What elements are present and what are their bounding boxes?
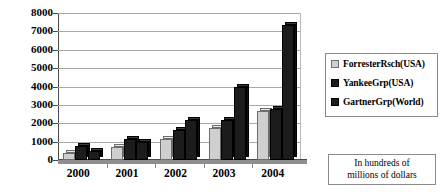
y-tick (53, 50, 58, 51)
bar-face (185, 120, 197, 160)
bar-face (209, 128, 221, 160)
gridline (58, 31, 300, 32)
bar-face (75, 146, 87, 160)
legend-swatch-icon (331, 79, 339, 87)
x-tick (252, 164, 253, 168)
y-tick-label: 5000 (1, 62, 53, 73)
bar-2004-gartnergrp-world (282, 25, 294, 160)
x-tick-label-2002: 2002 (151, 167, 200, 179)
units-note: In hundreds of millions of dollars (328, 154, 436, 185)
y-tick-label: 6000 (1, 44, 53, 55)
bar-2002-yankeegrp-usa (173, 130, 185, 160)
bar-side (246, 84, 249, 158)
legend-label: ForresterRsch(USA) (343, 59, 425, 69)
legend-item-forresterrsch-usa[interactable]: ForresterRsch(USA) (331, 59, 433, 69)
y-tick-label: 7000 (1, 25, 53, 36)
y-tick (53, 13, 58, 14)
bar-2000-yankeegrp-usa (75, 146, 87, 160)
y-tick-label: 0 (1, 154, 53, 165)
y-tick (53, 123, 58, 124)
bar-2003-yankeegrp-usa (221, 120, 233, 160)
y-tick-label: 3000 (1, 99, 53, 110)
y-tick (53, 31, 58, 32)
bar-2001-gartnergrp-world (136, 142, 148, 160)
gridline (58, 13, 300, 14)
bar-side (294, 22, 297, 157)
legend-label: YankeeGrp(USA) (343, 78, 413, 88)
y-tick (53, 105, 58, 106)
bar-face (270, 109, 282, 160)
bar-side (197, 117, 200, 157)
bar-2003-forresterrsch-usa (209, 128, 221, 160)
x-tick (155, 164, 156, 168)
bar-2002-forresterrsch-usa (160, 139, 172, 160)
gridline (58, 105, 300, 106)
bar-face (234, 87, 246, 161)
legend: ForresterRsch(USA)YankeeGrp(USA)GartnerG… (325, 53, 438, 117)
bar-2001-yankeegrp-usa (124, 139, 136, 160)
chart-floor (58, 160, 307, 164)
x-tick (107, 164, 108, 168)
chart-container: 010002000300040005000600070008000 200020… (0, 0, 445, 195)
legend-swatch-icon (331, 98, 339, 106)
y-tick-label: 4000 (1, 81, 53, 92)
bar-2004-yankeegrp-usa (270, 109, 282, 160)
y-tick (53, 87, 58, 88)
bar-face (88, 151, 100, 160)
legend-label: GartnerGrp(World) (343, 97, 424, 107)
gridline (58, 87, 300, 88)
gridline (58, 68, 300, 69)
bar-face (221, 120, 233, 160)
x-tick-label-2004: 2004 (248, 167, 297, 179)
bar-2000-gartnergrp-world (88, 151, 100, 160)
bar-2002-gartnergrp-world (185, 120, 197, 160)
bar-face (111, 147, 123, 160)
legend-item-yankeegrp-usa[interactable]: YankeeGrp(USA) (331, 78, 433, 88)
legend-swatch-icon (331, 60, 339, 68)
bar-face (257, 111, 269, 160)
plot-area: 010002000300040005000600070008000 200020… (0, 0, 310, 195)
y-tick (53, 68, 58, 69)
x-tick-label-2000: 2000 (54, 167, 103, 179)
x-tick-label-2001: 2001 (103, 167, 152, 179)
units-note-line-2: millions of dollars (347, 170, 417, 182)
x-tick (204, 164, 205, 168)
y-tick-label: 2000 (1, 117, 53, 128)
bar-2004-forresterrsch-usa (257, 111, 269, 160)
y-tick (53, 142, 58, 143)
y-tick-label: 8000 (1, 7, 53, 18)
y-tick-label: 1000 (1, 136, 53, 147)
bar-face (173, 130, 185, 160)
bar-face (63, 153, 75, 160)
bar-2000-forresterrsch-usa (63, 153, 75, 160)
bar-2003-gartnergrp-world (234, 87, 246, 161)
x-tick-label-2003: 2003 (200, 167, 249, 179)
gridline (58, 50, 300, 51)
plot-right-frame (300, 13, 301, 161)
bar-face (136, 142, 148, 160)
bar-face (124, 139, 136, 160)
bar-face (282, 25, 294, 160)
units-note-line-1: In hundreds of (354, 158, 409, 170)
legend-item-gartnergrp-world[interactable]: GartnerGrp(World) (331, 97, 433, 107)
bar-2001-forresterrsch-usa (111, 147, 123, 160)
bar-face (160, 139, 172, 160)
